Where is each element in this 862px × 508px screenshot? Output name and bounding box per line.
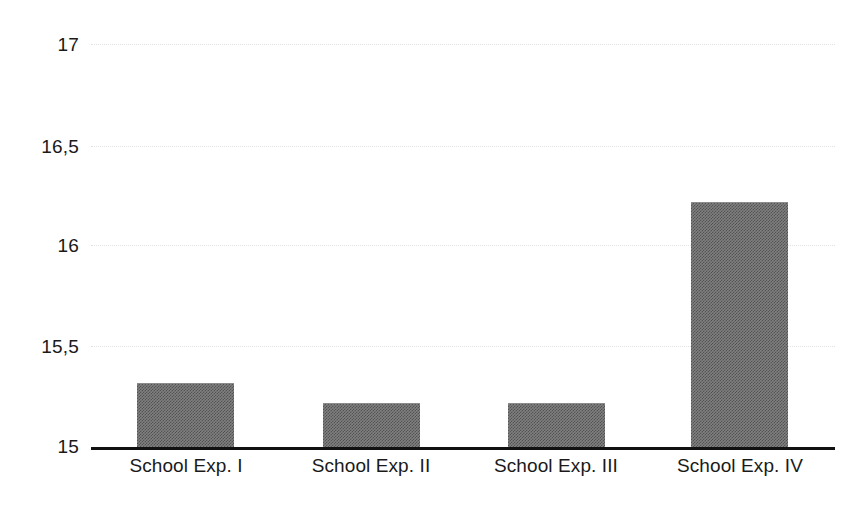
y-tick-label-16: 16: [9, 236, 79, 255]
x-axis-labels: School Exp. I School Exp. II School Exp.…: [91, 454, 835, 484]
bar-school-exp-i[interactable]: [137, 383, 234, 447]
x-tick-label-school-exp-iv: School Exp. IV: [653, 454, 827, 478]
x-tick-label-school-exp-iii: School Exp. III: [469, 454, 643, 478]
x-axis-line: [91, 447, 835, 450]
y-tick-label-15-5: 15,5: [9, 337, 79, 356]
bars-layer: [91, 44, 835, 447]
bar-school-exp-iii[interactable]: [508, 403, 605, 447]
x-tick-label-school-exp-ii: School Exp. II: [284, 454, 458, 478]
bar-chart: 17 16,5 16 15,5 15 School Exp. I School …: [0, 0, 862, 508]
y-tick-label-17: 17: [9, 35, 79, 54]
bar-school-exp-ii[interactable]: [323, 403, 420, 447]
y-tick-label-16-5: 16,5: [9, 137, 79, 156]
y-tick-label-15: 15: [9, 437, 79, 456]
x-tick-label-school-exp-i: School Exp. I: [99, 454, 273, 478]
y-axis-labels: 17 16,5 16 15,5 15: [0, 0, 79, 508]
bar-school-exp-iv[interactable]: [691, 202, 788, 447]
plot-area: [91, 44, 835, 447]
